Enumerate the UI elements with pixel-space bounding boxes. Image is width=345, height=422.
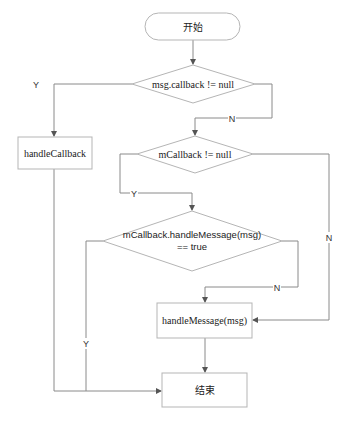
edge-decision3-yes: [86, 241, 103, 391]
edge-label-y2: Y: [131, 189, 137, 199]
edge-label-n1: N: [229, 114, 236, 124]
decision1-label: msg.callback != null: [152, 79, 234, 90]
edge-handlecallback-to-end: [54, 169, 161, 391]
node-handle-message: handleMessage(msg): [157, 303, 252, 338]
handle-callback-label: handleCallback: [24, 148, 86, 159]
node-end: 结束: [162, 373, 247, 407]
node-decision-handle-message: mCallback.handleMessage(msg) == true: [103, 211, 282, 271]
node-start: 开始: [145, 13, 240, 40]
node-decision-mcallback: mCallback != null: [137, 136, 253, 173]
edge-decision1-yes: [54, 84, 132, 136]
decision3-label-line2: == true: [177, 241, 207, 252]
decision3-label-line1: mCallback.handleMessage(msg): [123, 229, 261, 240]
flowchart: Y N Y N N Y 开始 msg.callback != null hand…: [0, 0, 345, 422]
start-label: 开始: [183, 21, 203, 33]
end-label: 结束: [195, 384, 215, 396]
edge-label-n2: N: [326, 233, 333, 243]
decision2-label: mCallback != null: [159, 149, 232, 160]
handle-message-label: handleMessage(msg): [162, 315, 247, 327]
edge-label-y3: Y: [83, 339, 89, 349]
edge-label-n3: N: [274, 283, 281, 293]
node-decision-msg-callback: msg.callback != null: [132, 65, 255, 103]
node-handle-callback: handleCallback: [18, 137, 92, 169]
edge-label-y1: Y: [33, 80, 39, 90]
